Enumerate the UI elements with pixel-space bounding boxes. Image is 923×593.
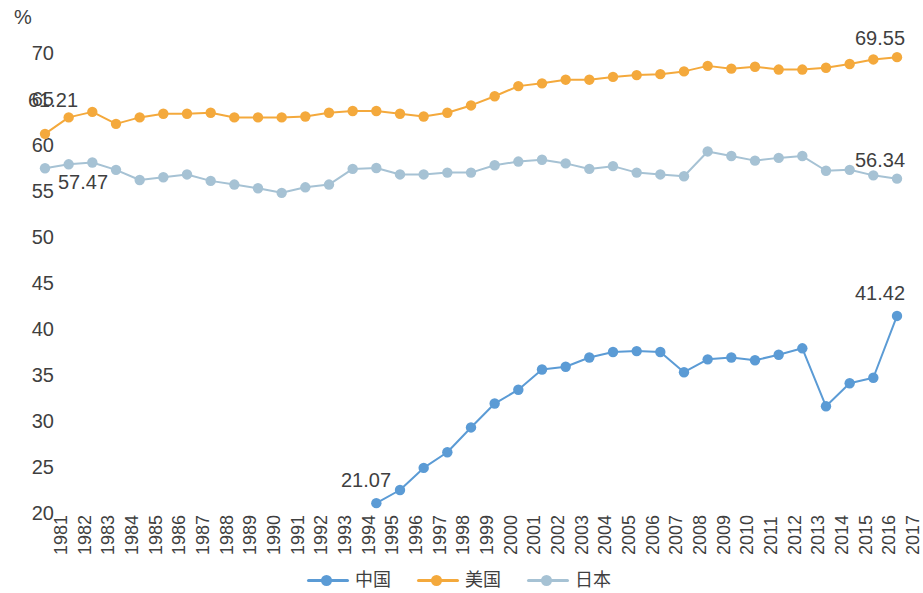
data-point[interactable] xyxy=(134,112,144,122)
data-point[interactable] xyxy=(560,74,570,84)
data-point[interactable] xyxy=(844,59,854,69)
data-point[interactable] xyxy=(560,362,570,372)
data-point[interactable] xyxy=(584,164,594,174)
data-point[interactable] xyxy=(111,119,121,129)
data-point[interactable] xyxy=(134,175,144,185)
data-point[interactable] xyxy=(821,401,831,411)
data-point[interactable] xyxy=(442,447,452,457)
data-point[interactable] xyxy=(537,155,547,165)
data-point[interactable] xyxy=(797,64,807,74)
data-point[interactable] xyxy=(395,169,405,179)
data-point[interactable] xyxy=(726,352,736,362)
data-point[interactable] xyxy=(395,485,405,495)
data-point[interactable] xyxy=(608,161,618,171)
data-point[interactable] xyxy=(276,112,286,122)
data-point[interactable] xyxy=(631,70,641,80)
data-point[interactable] xyxy=(892,311,902,321)
legend-item-中国[interactable]: 中国 xyxy=(307,571,391,589)
data-point[interactable] xyxy=(466,100,476,110)
data-point[interactable] xyxy=(702,354,712,364)
data-point[interactable] xyxy=(655,347,665,357)
data-point[interactable] xyxy=(300,111,310,121)
data-point[interactable] xyxy=(679,66,689,76)
data-point[interactable] xyxy=(750,62,760,72)
data-point[interactable] xyxy=(371,163,381,173)
data-point[interactable] xyxy=(324,179,334,189)
data-point[interactable] xyxy=(182,109,192,119)
data-point[interactable] xyxy=(253,183,263,193)
data-point[interactable] xyxy=(63,159,73,169)
data-point[interactable] xyxy=(347,164,357,174)
data-point[interactable] xyxy=(702,146,712,156)
data-point[interactable] xyxy=(87,107,97,117)
data-point[interactable] xyxy=(537,78,547,88)
data-point[interactable] xyxy=(513,156,523,166)
data-point[interactable] xyxy=(773,64,783,74)
data-point[interactable] xyxy=(868,54,878,64)
legend-item-日本[interactable]: 日本 xyxy=(527,571,611,589)
data-point[interactable] xyxy=(205,176,215,186)
data-point[interactable] xyxy=(513,385,523,395)
data-point[interactable] xyxy=(797,151,807,161)
data-point[interactable] xyxy=(679,367,689,377)
data-point[interactable] xyxy=(821,166,831,176)
data-point[interactable] xyxy=(371,498,381,508)
data-point[interactable] xyxy=(158,172,168,182)
data-point[interactable] xyxy=(466,422,476,432)
data-point[interactable] xyxy=(158,109,168,119)
data-point[interactable] xyxy=(679,171,689,181)
data-point[interactable] xyxy=(821,63,831,73)
data-point[interactable] xyxy=(655,169,665,179)
data-point[interactable] xyxy=(489,91,499,101)
data-point[interactable] xyxy=(418,169,428,179)
data-point[interactable] xyxy=(726,151,736,161)
data-point[interactable] xyxy=(395,109,405,119)
data-point[interactable] xyxy=(892,173,902,183)
data-point[interactable] xyxy=(371,106,381,116)
data-point[interactable] xyxy=(537,364,547,374)
data-point[interactable] xyxy=(750,355,760,365)
data-point[interactable] xyxy=(489,160,499,170)
data-point[interactable] xyxy=(868,373,878,383)
data-point[interactable] xyxy=(844,165,854,175)
data-point[interactable] xyxy=(631,167,641,177)
data-point[interactable] xyxy=(608,72,618,82)
data-point[interactable] xyxy=(773,153,783,163)
data-point[interactable] xyxy=(773,350,783,360)
data-point[interactable] xyxy=(513,81,523,91)
data-point[interactable] xyxy=(868,170,878,180)
data-point[interactable] xyxy=(489,398,499,408)
data-point[interactable] xyxy=(182,169,192,179)
data-point[interactable] xyxy=(726,63,736,73)
data-point[interactable] xyxy=(229,179,239,189)
data-point[interactable] xyxy=(892,52,902,62)
data-point[interactable] xyxy=(418,111,428,121)
data-point[interactable] xyxy=(347,106,357,116)
data-point[interactable] xyxy=(442,108,452,118)
data-point[interactable] xyxy=(631,346,641,356)
data-point[interactable] xyxy=(324,108,334,118)
data-point[interactable] xyxy=(655,69,665,79)
data-point[interactable] xyxy=(253,112,263,122)
data-point[interactable] xyxy=(608,347,618,357)
data-point[interactable] xyxy=(40,163,50,173)
data-point[interactable] xyxy=(87,157,97,167)
data-point[interactable] xyxy=(702,61,712,71)
data-point[interactable] xyxy=(300,182,310,192)
data-point[interactable] xyxy=(276,188,286,198)
data-point[interactable] xyxy=(584,74,594,84)
data-point[interactable] xyxy=(63,112,73,122)
data-point[interactable] xyxy=(560,158,570,168)
data-point[interactable] xyxy=(466,167,476,177)
data-point[interactable] xyxy=(40,129,50,139)
data-point[interactable] xyxy=(750,155,760,165)
data-point[interactable] xyxy=(844,378,854,388)
data-point[interactable] xyxy=(584,352,594,362)
data-point[interactable] xyxy=(442,167,452,177)
data-point[interactable] xyxy=(229,112,239,122)
data-point[interactable] xyxy=(111,165,121,175)
legend-item-美国[interactable]: 美国 xyxy=(417,571,501,589)
data-point[interactable] xyxy=(205,108,215,118)
data-point[interactable] xyxy=(418,463,428,473)
data-point[interactable] xyxy=(797,343,807,353)
